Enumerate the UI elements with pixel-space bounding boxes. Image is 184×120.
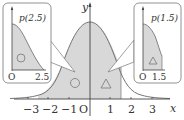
right-inset-tick: 1.5 bbox=[152, 72, 167, 82]
x-axis-label: x bbox=[170, 102, 177, 115]
right-inset: p(1.5) O 1.5 bbox=[134, 3, 181, 83]
figure-svg: −3 −2 −1 O 1 2 3 x y p(2.5) O 2.5 p(1 bbox=[0, 0, 184, 120]
right-inset-label: p(1.5) bbox=[151, 13, 179, 23]
tick-label-2: 2 bbox=[128, 103, 135, 116]
origin-label: O bbox=[79, 103, 88, 116]
left-inset-label: p(2.5) bbox=[19, 13, 47, 23]
tick-label-1: 1 bbox=[107, 103, 114, 116]
left-inset: p(2.5) O 2.5 bbox=[3, 3, 51, 83]
normal-distribution-figure: −3 −2 −1 O 1 2 3 x y p(2.5) O 2.5 p(1 bbox=[0, 0, 184, 120]
right-inset-origin: O bbox=[139, 72, 146, 82]
tick-label-neg1: −1 bbox=[61, 103, 77, 116]
left-inset-origin: O bbox=[8, 72, 15, 82]
tick-label-neg3: −3 bbox=[23, 103, 39, 116]
y-axis-label: y bbox=[81, 1, 89, 14]
tick-label-3: 3 bbox=[149, 103, 156, 116]
tick-label-neg2: −2 bbox=[42, 103, 58, 116]
y-axis-arrow-icon bbox=[89, 2, 92, 7]
left-inset-tick: 2.5 bbox=[35, 72, 50, 82]
